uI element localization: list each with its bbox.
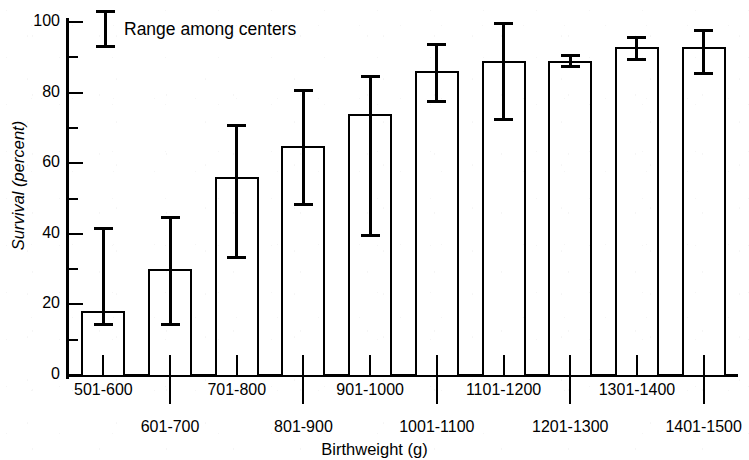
error-bar-cap-upper: [427, 43, 446, 46]
x-tick: [636, 355, 638, 375]
x-tick-label: 501-600: [74, 381, 133, 398]
x-tick: [302, 355, 304, 404]
y-tick-major: [69, 92, 83, 94]
y-tick-major: [69, 233, 83, 235]
x-tick-label: 901-1000: [336, 381, 404, 398]
y-tick-major: [69, 162, 83, 164]
y-tick-label: 60: [42, 154, 60, 170]
y-tick-minor: [69, 127, 78, 129]
x-tick: [169, 355, 171, 404]
error-bar-cap-lower: [294, 203, 313, 206]
x-tick-label: 801-900: [274, 418, 333, 435]
y-tick-label: 80: [42, 84, 60, 100]
error-bar-cap-lower: [694, 72, 713, 75]
y-tick-major: [69, 21, 83, 23]
legend: Range among centers: [96, 10, 296, 48]
x-tick: [102, 355, 104, 375]
error-bar-cap-lower: [561, 65, 580, 68]
error-bar-cap-upper: [94, 227, 113, 230]
x-tick: [703, 355, 705, 404]
error-bar-cap-lower: [494, 118, 513, 121]
y-tick-minor: [69, 56, 78, 58]
y-axis-title: Survival (percent): [9, 86, 28, 286]
error-bar-line: [502, 22, 505, 121]
bar: [682, 47, 726, 375]
error-bar-cap-upper: [161, 216, 180, 219]
error-bar-line: [369, 75, 372, 237]
y-tick-major: [69, 303, 83, 305]
range-bar-icon: [96, 10, 115, 48]
bar: [415, 71, 459, 375]
error-bar-cap-lower: [627, 58, 646, 61]
y-tick-label: 20: [42, 295, 60, 311]
error-bar-cap-upper: [694, 29, 713, 32]
y-tick-label: 0: [51, 366, 60, 382]
x-tick-label: 701-800: [207, 381, 266, 398]
error-bar-line: [169, 216, 172, 325]
error-bar-line: [235, 124, 238, 258]
error-bar-cap-lower: [161, 323, 180, 326]
error-bar-line: [102, 227, 105, 326]
error-bar-cap-upper: [294, 89, 313, 92]
error-bar-cap-upper: [561, 54, 580, 57]
y-tick-minor: [69, 198, 78, 200]
x-tick-label: 1401-1500: [665, 418, 742, 435]
x-tick-label: 601-700: [141, 418, 200, 435]
x-tick: [569, 355, 571, 404]
x-tick: [436, 355, 438, 404]
error-bar-cap-lower: [227, 256, 246, 259]
x-tick-label: 1201-1300: [532, 418, 609, 435]
error-bar-cap-upper: [361, 75, 380, 78]
error-bar-cap-lower: [94, 323, 113, 326]
x-tick: [236, 355, 238, 375]
bar: [548, 61, 592, 375]
error-bar-line: [302, 89, 305, 205]
error-bar-cap-upper: [494, 22, 513, 25]
x-tick: [369, 355, 371, 375]
y-tick-minor: [69, 268, 78, 270]
x-axis-title: Birthweight (g): [321, 440, 427, 459]
bar: [615, 47, 659, 375]
y-tick-minor: [69, 339, 78, 341]
error-bar-line: [702, 29, 705, 75]
x-tick-label: 1001-1100: [399, 418, 474, 435]
survival-by-birthweight-chart: Survival (percent) 020406080100 501-6006…: [0, 0, 749, 460]
error-bar-line: [435, 43, 438, 103]
error-bar-cap-upper: [627, 36, 646, 39]
x-tick-label: 1101-1200: [466, 381, 541, 398]
y-tick-label: 40: [42, 225, 60, 241]
error-bar-cap-upper: [227, 124, 246, 127]
legend-label: Range among centers: [124, 20, 296, 38]
x-tick-label: 1301-1400: [599, 381, 676, 398]
y-tick-label: 100: [33, 13, 60, 29]
x-tick: [503, 355, 505, 375]
error-bar-cap-lower: [427, 100, 446, 103]
error-bar-cap-lower: [361, 234, 380, 237]
